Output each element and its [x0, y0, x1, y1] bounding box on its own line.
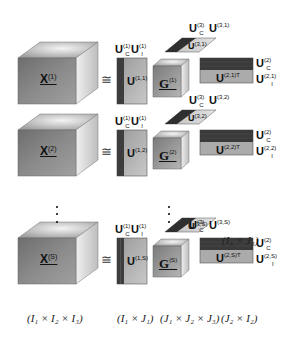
u3-body-label-2: U(3,2)	[188, 114, 207, 123]
u3-body-label-1: U(3,1)	[188, 42, 207, 51]
u2-indiv-label-2: U(2,2)I	[256, 146, 278, 157]
u3-label-2: U(3,2)	[209, 95, 229, 106]
tensor-dimension-label: (I₁ × I₂ × I₃)	[27, 313, 83, 324]
u2-common-label-1: U(2)C	[256, 58, 276, 69]
tensor-cube-s	[18, 222, 98, 284]
u2-indiv-label-1: U(2,1)I	[256, 74, 278, 85]
u1-indiv-label-2: U(1)I	[131, 116, 148, 127]
u3-label-1: U(3,1)	[209, 23, 229, 34]
core-label-1: G(1)	[159, 77, 176, 90]
u2-common-label-2: U(2)C	[256, 130, 276, 141]
u3-body-label-s: U(3,S)	[188, 222, 208, 231]
u1-dimension-label: (I₁ × J₁)	[117, 313, 153, 324]
tensor-label-2: X(2)	[40, 145, 57, 157]
u1-body-label-2: U(1,2)	[127, 148, 147, 159]
ellipsis-left	[56, 206, 58, 223]
u3-label-s: U(3,S)	[209, 220, 230, 231]
tensor-label-1: X(1)	[40, 73, 57, 85]
u2-indiv-label-s: U(2,S)I	[256, 254, 279, 265]
ellipsis-middle	[168, 206, 170, 223]
tensor-label-s: X(S)	[40, 253, 57, 265]
u2-body-label-s: U(2,S)T	[216, 253, 241, 264]
u3-dimension-label: (I₃ × J₃)	[222, 235, 258, 246]
u1-indiv-label-1: U(1)I	[131, 44, 148, 55]
core-label-2: G(2)	[159, 149, 176, 162]
core-label-s: G(S)	[159, 257, 177, 270]
u2-common-label-s: U(2)C	[256, 238, 276, 249]
approx-equal-icon: ≅	[101, 145, 112, 158]
u1-indiv-label-s: U(1)I	[131, 224, 148, 235]
u3-common-label-2: U(3)C	[189, 95, 209, 106]
core-dimension-label: (J₁ × J₂ × J₃)	[160, 313, 219, 324]
u2-body-label-1: U(2,1)T	[216, 73, 240, 84]
u2-dimension-label: (J₂ × I₂)	[221, 313, 257, 324]
u2-body-label-2: U(2,2)T	[216, 145, 240, 156]
tensor-cube-2	[18, 114, 98, 176]
u1-body-label-s: U(1,S)	[127, 256, 148, 267]
u3-common-label-1: U(3)C	[189, 23, 209, 34]
approx-equal-icon: ≅	[101, 253, 112, 266]
tensor-cube-1	[18, 42, 98, 104]
approx-equal-icon: ≅	[101, 73, 112, 86]
u1-body-label-1: U(1,1)	[127, 76, 147, 87]
